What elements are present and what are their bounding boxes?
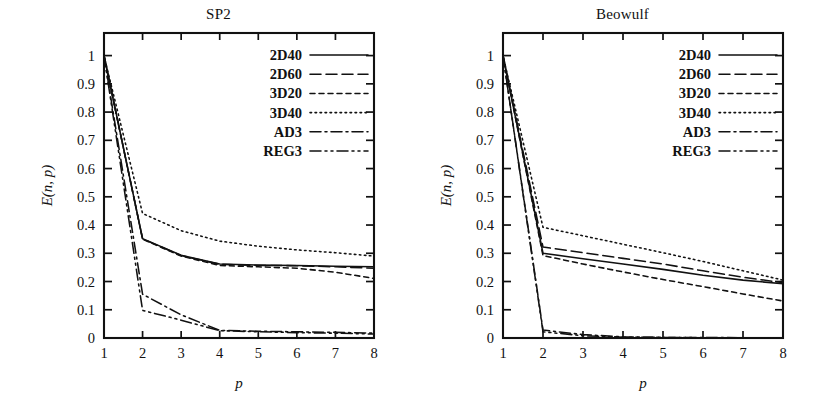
y-tick-label: 0.8 xyxy=(77,104,95,120)
x-tick-label: 7 xyxy=(332,345,339,361)
y-tick-label: 0.1 xyxy=(476,302,494,318)
legend-label-ad3: AD3 xyxy=(683,124,711,140)
panel-sp2: SP2 1234567800.10.20.30.40.50.60.70.80.9… xyxy=(0,0,409,411)
x-tick-label: 2 xyxy=(539,345,546,361)
y-tick-label: 0.9 xyxy=(476,76,494,92)
legend-label-3d40: 3D40 xyxy=(679,105,711,121)
series-line-2d40 xyxy=(104,56,374,267)
plot-area-sp2: 1234567800.10.20.30.40.50.60.70.80.91pE(… xyxy=(0,0,409,411)
x-axis-title: p xyxy=(234,375,243,391)
plot-area-beowulf: 1234567800.10.20.30.40.50.60.70.80.91pE(… xyxy=(409,0,818,411)
y-tick-label: 0.4 xyxy=(77,217,96,233)
y-tick-label: 0.1 xyxy=(77,302,95,318)
series-line-reg3 xyxy=(503,56,783,338)
y-tick-label: 0.3 xyxy=(77,245,95,261)
series-line-2d40 xyxy=(503,56,783,284)
y-tick-label: 0.9 xyxy=(77,76,95,92)
x-tick-label: 5 xyxy=(659,345,666,361)
series-line-2d60 xyxy=(104,56,374,269)
plot-frame xyxy=(104,33,374,338)
series-line-3d20 xyxy=(104,56,374,279)
y-axis-title: E(n, p) xyxy=(438,165,455,208)
series-line-ad3 xyxy=(104,56,374,334)
series-line-3d20 xyxy=(503,56,783,301)
series-line-reg3 xyxy=(104,56,374,334)
legend-label-3d20: 3D20 xyxy=(679,85,711,101)
x-tick-label: 3 xyxy=(579,345,586,361)
legend-label-2d60: 2D60 xyxy=(679,66,711,82)
plot-svg-sp2: 1234567800.10.20.30.40.50.60.70.80.91pE(… xyxy=(0,0,409,411)
x-tick-label: 5 xyxy=(255,345,262,361)
x-tick-label: 6 xyxy=(699,345,706,361)
legend-label-2d40: 2D40 xyxy=(270,47,302,63)
y-tick-label: 0.5 xyxy=(476,189,494,205)
y-tick-label: 1 xyxy=(487,48,494,64)
x-tick-label: 2 xyxy=(139,345,146,361)
y-tick-label: 0 xyxy=(88,330,95,346)
x-tick-label: 7 xyxy=(739,345,746,361)
series-line-3d40 xyxy=(104,56,374,257)
series-line-2d60 xyxy=(503,56,783,283)
x-axis-title: p xyxy=(638,375,647,391)
y-tick-label: 1 xyxy=(88,48,95,64)
plot-frame xyxy=(503,33,783,338)
y-tick-label: 0 xyxy=(487,330,494,346)
y-tick-label: 0.3 xyxy=(476,245,494,261)
y-tick-label: 0.5 xyxy=(77,189,95,205)
y-tick-label: 0.2 xyxy=(476,274,494,290)
y-tick-label: 0.7 xyxy=(77,132,95,148)
legend-label-2d40: 2D40 xyxy=(679,47,711,63)
figure-two-panel-efficiency-plots: SP2 1234567800.10.20.30.40.50.60.70.80.9… xyxy=(0,0,819,411)
panel-beowulf: Beowulf 1234567800.10.20.30.40.50.60.70.… xyxy=(409,0,818,411)
plot-svg-beowulf: 1234567800.10.20.30.40.50.60.70.80.91pE(… xyxy=(409,0,818,411)
legend-label-3d20: 3D20 xyxy=(270,85,302,101)
x-tick-label: 4 xyxy=(216,345,224,361)
y-tick-label: 0.6 xyxy=(77,161,95,177)
legend-label-reg3: REG3 xyxy=(672,143,711,159)
legend-label-ad3: AD3 xyxy=(274,124,302,140)
legend-label-2d60: 2D60 xyxy=(270,66,302,82)
x-tick-label: 3 xyxy=(178,345,185,361)
x-tick-label: 8 xyxy=(779,345,786,361)
y-tick-label: 0.4 xyxy=(476,217,495,233)
y-tick-label: 0.7 xyxy=(476,132,494,148)
x-tick-label: 1 xyxy=(499,345,506,361)
x-tick-label: 8 xyxy=(370,345,377,361)
x-tick-label: 4 xyxy=(619,345,627,361)
legend-label-reg3: REG3 xyxy=(263,143,302,159)
y-tick-label: 0.6 xyxy=(476,161,494,177)
y-tick-label: 0.8 xyxy=(476,104,494,120)
x-tick-label: 6 xyxy=(293,345,300,361)
legend-label-3d40: 3D40 xyxy=(270,105,302,121)
series-line-3d40 xyxy=(503,56,783,281)
y-axis-title: E(n, p) xyxy=(39,165,56,208)
y-tick-label: 0.2 xyxy=(77,274,95,290)
series-line-ad3 xyxy=(503,56,783,338)
x-tick-label: 1 xyxy=(100,345,107,361)
